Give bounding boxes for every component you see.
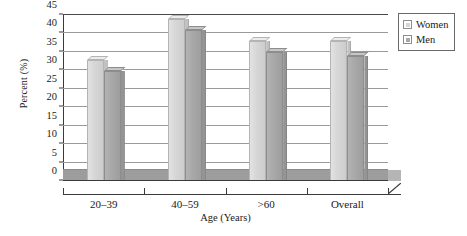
- legend-label-men: Men: [416, 34, 435, 45]
- bar-group: [307, 15, 388, 181]
- bar-side-face: [364, 56, 368, 181]
- x-axis-tick-mark: [388, 188, 389, 195]
- y-axis-tick-label: 0: [52, 165, 57, 176]
- bar-men-60[interactable]: [266, 52, 283, 181]
- bar-front-face: [87, 60, 104, 181]
- bar-side-face: [121, 71, 125, 181]
- y-axis-tick-label: 5: [52, 146, 57, 157]
- y-axis-tick-label: 35: [47, 35, 58, 46]
- x-axis-tick-mark: [226, 188, 227, 195]
- y-axis-tick-label: 45: [47, 0, 58, 10]
- x-axis-tick-mark: [307, 188, 308, 195]
- y-axis-tick-label: 10: [47, 128, 58, 139]
- x-axis-baseline: [63, 180, 388, 181]
- x-axis-tick-label: 40–59: [144, 198, 225, 210]
- y-axis-tick-label: 40: [47, 17, 58, 28]
- bar-front-face: [266, 52, 283, 181]
- x-axis-line: [63, 194, 401, 195]
- men-swatch-icon: [403, 35, 412, 44]
- bar-side-face: [283, 52, 287, 181]
- bar-men-4059[interactable]: [185, 30, 202, 181]
- x-axis-tick-mark: [63, 188, 64, 195]
- bar-group: [226, 15, 307, 181]
- women-swatch-icon: [403, 20, 412, 29]
- x-axis-labels: 20–3940–59>60Overall: [63, 198, 388, 210]
- bar-chart-figure: Percent (%) 051015202530354045 20–3940–5…: [0, 0, 467, 236]
- legend-label-women: Women: [416, 19, 448, 30]
- bar-group-bars: [63, 15, 144, 181]
- bar-front-face: [168, 19, 185, 181]
- y-axis-tick-label: 30: [47, 54, 58, 65]
- y-axis-tick-label: 15: [47, 109, 58, 120]
- bar-group: [144, 15, 225, 181]
- x-axis-tick-label: 20–39: [63, 198, 144, 210]
- x-axis-tick-label: >60: [226, 198, 307, 210]
- bar-men-Overall[interactable]: [347, 56, 364, 181]
- bar-women-4059[interactable]: [168, 19, 185, 181]
- chart-floor-right-face: [388, 170, 401, 181]
- bar-group-bars: [144, 15, 225, 181]
- bar-front-face: [185, 30, 202, 181]
- bar-men-2039[interactable]: [104, 71, 121, 181]
- bar-women-60[interactable]: [249, 41, 266, 181]
- bar-groups: [63, 15, 388, 181]
- y-axis-tick-label: 20: [47, 91, 58, 102]
- y-axis-tick-label: 25: [47, 72, 58, 83]
- bar-front-face: [104, 71, 121, 181]
- x-axis-tick-label: Overall: [307, 198, 388, 210]
- bar-side-face: [202, 30, 206, 181]
- bar-front-face: [330, 41, 347, 181]
- bar-women-Overall[interactable]: [330, 41, 347, 181]
- bar-group: [63, 15, 144, 181]
- x-axis-title: Age (Years): [63, 212, 388, 223]
- plot-area: 051015202530354045: [63, 15, 388, 181]
- y-axis-title: Percent (%): [18, 39, 29, 129]
- bar-front-face: [347, 56, 364, 181]
- bar-group-bars: [226, 15, 307, 181]
- x-axis-depth-edge-icon: [388, 183, 401, 195]
- bar-group-bars: [307, 15, 388, 181]
- legend-item-men[interactable]: Men: [403, 32, 448, 47]
- bar-women-2039[interactable]: [87, 60, 104, 181]
- x-axis-tick-mark: [144, 188, 145, 195]
- legend-item-women[interactable]: Women: [403, 17, 448, 32]
- legend: Women Men: [398, 13, 455, 51]
- bar-front-face: [249, 41, 266, 181]
